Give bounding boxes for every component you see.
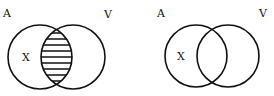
venn-right: A V X <box>156 7 268 87</box>
label-x: X <box>177 50 185 63</box>
venn-left: A V X <box>2 7 113 89</box>
label-a: A <box>156 7 166 20</box>
intersection-hatching <box>30 33 85 81</box>
label-x: X <box>22 51 30 64</box>
venn-diagrams-canvas: A V X A V X <box>0 0 274 96</box>
set-a-circle <box>165 25 227 87</box>
set-v-circle <box>197 25 259 87</box>
label-a: A <box>2 7 12 20</box>
label-v: V <box>103 8 113 21</box>
label-v: V <box>258 7 268 20</box>
